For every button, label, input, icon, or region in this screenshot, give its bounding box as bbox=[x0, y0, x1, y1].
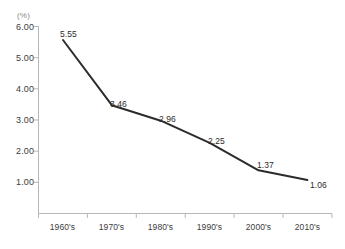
data-point-label: 1.06 bbox=[310, 180, 327, 190]
x-tick-label: 2000's bbox=[234, 222, 283, 232]
data-point-label: 2.25 bbox=[208, 136, 225, 146]
x-tick-label: 2010's bbox=[283, 222, 332, 232]
data-series-line bbox=[63, 40, 307, 180]
y-axis-ticks bbox=[34, 27, 39, 183]
x-tick-label: 1970's bbox=[87, 222, 136, 232]
x-tick-label: 1980's bbox=[136, 222, 185, 232]
data-point-label: 1.37 bbox=[257, 160, 274, 170]
x-axis-ticks bbox=[39, 214, 332, 219]
x-tick-label: 1990's bbox=[185, 222, 234, 232]
x-tick-label: 1960's bbox=[38, 222, 87, 232]
data-point-label: 2.96 bbox=[159, 114, 176, 124]
line-chart: (%) 6.00 5.00 4.00 3.00 2.00 1.00 bbox=[0, 0, 345, 249]
chart-canvas bbox=[0, 0, 345, 249]
data-point-label: 5.55 bbox=[60, 29, 77, 39]
data-point-label: 3.46 bbox=[110, 99, 127, 109]
